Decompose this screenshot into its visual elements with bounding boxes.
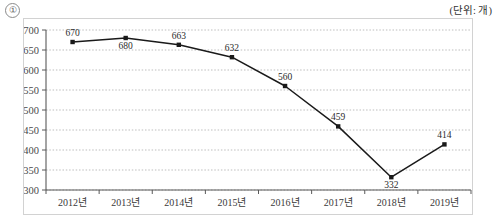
x-axis-category-label: 2014년 <box>164 197 193 208</box>
y-axis-tick-label: 650 <box>24 45 39 56</box>
data-point-marker <box>389 175 393 179</box>
data-point-marker <box>336 124 340 128</box>
data-point-marker <box>283 84 287 88</box>
x-axis-category-label: 2015년 <box>217 197 246 208</box>
y-axis-tick-label: 550 <box>24 85 39 96</box>
data-point-label: 632 <box>225 43 240 53</box>
y-axis-tick-label: 450 <box>24 125 39 136</box>
chart-header: ① (단위: 개) <box>0 0 500 20</box>
data-point-label: 680 <box>119 41 134 51</box>
chart-panel: 3003504004505005506006507002012년2013년201… <box>23 18 473 215</box>
item-number-marker: ① <box>5 3 20 18</box>
y-axis-tick-label: 300 <box>24 185 39 196</box>
y-axis-tick-label: 350 <box>24 165 39 176</box>
x-axis-category-label: 2018년 <box>377 197 406 208</box>
series-line <box>73 38 445 177</box>
data-point-label: 670 <box>65 28 80 38</box>
y-axis-tick-label: 500 <box>24 105 39 116</box>
y-axis-tick-label: 400 <box>24 145 39 156</box>
x-axis-category-label: 2012년 <box>58 197 87 208</box>
x-axis-category-label: 2019년 <box>430 197 459 208</box>
data-point-marker <box>177 43 181 47</box>
x-axis-category-label: 2016년 <box>271 197 300 208</box>
data-point-marker <box>442 142 446 146</box>
y-axis-tick-label: 700 <box>24 25 39 36</box>
x-axis-category-label: 2013년 <box>111 197 140 208</box>
unit-label: (단위: 개) <box>449 2 492 17</box>
data-point-marker <box>123 36 127 40</box>
x-axis-category-label: 2017년 <box>324 197 353 208</box>
data-point-label: 663 <box>172 31 187 41</box>
line-chart-svg: 3003504004505005506006507002012년2013년201… <box>24 19 474 216</box>
data-point-label: 560 <box>278 72 293 82</box>
data-point-marker <box>70 40 74 44</box>
data-point-label: 459 <box>331 112 346 122</box>
data-point-marker <box>230 55 234 59</box>
data-point-label: 332 <box>384 180 399 190</box>
y-axis-tick-label: 600 <box>24 65 39 76</box>
data-point-label: 414 <box>437 130 452 140</box>
